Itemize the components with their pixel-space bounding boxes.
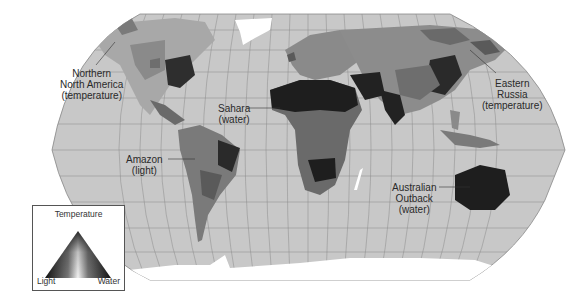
label-line: Northern <box>60 68 123 79</box>
label-line: Outback <box>392 193 436 204</box>
label-australian-outback: Australian Outback (water) <box>392 182 436 215</box>
label-amazon: Amazon (light) <box>126 154 163 176</box>
label-line: Eastern <box>482 78 543 89</box>
legend-light-label: Light <box>37 276 55 286</box>
label-eastern-russia: Eastern Russia (temperature) <box>482 78 543 111</box>
ternary-legend: Temperature Light Water <box>32 205 125 291</box>
label-line: Russia <box>482 89 543 100</box>
label-line: (water) <box>218 114 250 125</box>
label-line: (temperature) <box>482 100 543 111</box>
label-line: Amazon <box>126 154 163 165</box>
label-line: North America <box>60 79 123 90</box>
label-line: (water) <box>392 204 436 215</box>
australia <box>455 165 510 210</box>
label-line: (temperature) <box>60 90 123 101</box>
label-line: Australian <box>392 182 436 193</box>
label-sahara: Sahara (water) <box>218 103 250 125</box>
label-line: Sahara <box>218 103 250 114</box>
legend-water-label: Water <box>98 276 120 286</box>
legend-title: Temperature <box>33 209 124 219</box>
label-line: (light) <box>126 165 163 176</box>
label-northern-north-america: Northern North America (temperature) <box>60 68 123 101</box>
